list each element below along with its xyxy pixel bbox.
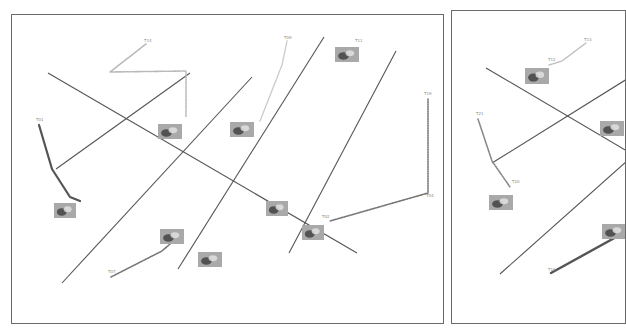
thumbnail-image xyxy=(600,121,624,136)
thumbnail-highlight xyxy=(241,125,250,131)
trajectory-label: T09 xyxy=(283,35,292,40)
thumbnail-highlight xyxy=(611,124,620,130)
thumbnail-highlight xyxy=(209,255,218,261)
trajectory-plot-right: T13T12T21T20T16 xyxy=(452,11,626,324)
thumbnail-highlight xyxy=(500,198,509,204)
thumbnail-highlight xyxy=(613,227,622,233)
trajectory-path xyxy=(110,44,186,117)
reference-line xyxy=(486,68,626,151)
trajectory-path xyxy=(478,119,510,187)
trajectory-label: T01 xyxy=(35,117,44,122)
thumbnail-highlight xyxy=(171,232,180,238)
reference-line xyxy=(56,73,190,169)
trajectory-label: T21 xyxy=(475,111,484,116)
thumbnail-image xyxy=(489,195,513,210)
trajectory-label: T20 xyxy=(511,179,520,184)
reference-line xyxy=(500,161,626,274)
thumbnail-highlight xyxy=(536,72,545,78)
thumbnail-image xyxy=(602,224,626,239)
trajectory-label: T12 xyxy=(547,57,556,62)
trajectory-label: T11 xyxy=(354,38,363,43)
trajectory-path xyxy=(330,99,428,221)
reference-line xyxy=(62,77,252,283)
thumbnail-image xyxy=(54,203,76,218)
trajectory-panel-right: T13T12T21T20T16 xyxy=(451,10,626,324)
thumbnail-highlight xyxy=(276,204,284,210)
thumbnail-image xyxy=(198,252,222,267)
trajectory-label: T19 xyxy=(423,91,432,96)
trajectory-path xyxy=(39,125,80,201)
trajectory-label: T02 xyxy=(321,214,330,219)
thumbnail-image xyxy=(266,201,288,216)
thumbnail-highlight xyxy=(346,50,355,56)
trajectory-label: T04 xyxy=(425,193,434,198)
thumbnail-image xyxy=(230,122,254,137)
thumbnail-highlight xyxy=(312,228,320,234)
trajectory-plot-left: T01T14T09T07T19T04T02T11 xyxy=(12,15,444,324)
trajectory-label: T07 xyxy=(107,269,116,274)
trajectory-label: T13 xyxy=(583,37,592,42)
thumbnail-image xyxy=(302,225,324,240)
thumbnail-image xyxy=(160,229,184,244)
reference-line xyxy=(289,51,396,253)
thumbnail-image xyxy=(525,68,549,84)
trajectory-label: T16 xyxy=(547,267,556,272)
thumbnail-highlight xyxy=(64,206,72,212)
thumbnail-image xyxy=(335,47,359,62)
thumbnail-highlight xyxy=(169,127,178,133)
trajectory-panel-left: T01T14T09T07T19T04T02T11 xyxy=(11,14,444,324)
trajectory-path xyxy=(260,41,287,121)
trajectory-label: T14 xyxy=(143,38,152,43)
thumbnail-image xyxy=(158,124,182,139)
